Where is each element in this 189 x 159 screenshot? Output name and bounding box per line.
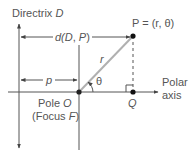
r-segment bbox=[79, 36, 133, 92]
polar-axis-label-line1: Polar bbox=[162, 76, 188, 88]
point-P bbox=[130, 33, 135, 38]
distance-label: d(D, P) bbox=[55, 31, 90, 43]
point-Q bbox=[130, 89, 135, 94]
polar-conic-diagram: Directrix D d(D, P) Polar axis p r θ P =… bbox=[0, 0, 189, 159]
point-P-label: P = (r, θ) bbox=[132, 17, 174, 29]
pole-label: Pole O bbox=[38, 97, 72, 109]
theta-label: θ bbox=[96, 75, 102, 87]
theta-arc bbox=[88, 82, 93, 92]
directrix-label: Directrix D bbox=[12, 7, 63, 19]
polar-axis-label-line2: axis bbox=[162, 89, 182, 101]
point-pole-O bbox=[76, 89, 81, 94]
point-Q-label: Q bbox=[128, 97, 137, 109]
r-label: r bbox=[100, 53, 105, 65]
p-label: p bbox=[45, 74, 52, 86]
focus-label: (Focus F) bbox=[32, 110, 79, 122]
